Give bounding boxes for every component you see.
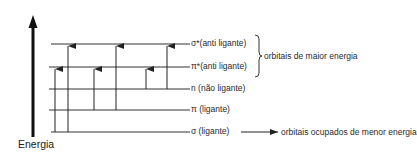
label-pi: π (ligante) (191, 104, 230, 114)
upper-orbitals-annotation: orbitais de maior energia (264, 51, 358, 61)
label-pi-star: π*(anti ligante) (191, 61, 247, 71)
energy-axis-label: Energia (18, 138, 54, 150)
energy-levels (49, 44, 190, 132)
label-sigma-star: σ*(anti ligante) (191, 38, 246, 48)
label-sigma: σ (ligante) (191, 126, 229, 136)
lower-orbitals-annotation: orbitais ocupados de menor energia (281, 127, 417, 137)
energy-axis-arrow (29, 15, 38, 137)
label-n: n (não ligante) (191, 83, 245, 93)
upper-orbitals-brace (255, 35, 262, 77)
